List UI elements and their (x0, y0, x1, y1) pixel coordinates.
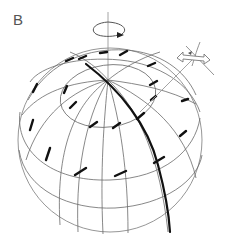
longitude-lines (22, 52, 196, 234)
sphere-diagram (0, 0, 227, 249)
sphere-outline (18, 48, 202, 232)
rotation-arrow-icon (93, 22, 124, 38)
